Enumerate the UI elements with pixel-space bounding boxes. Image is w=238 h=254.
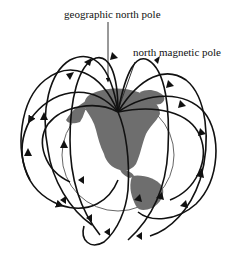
magnetic-field-diagram [0, 0, 238, 254]
